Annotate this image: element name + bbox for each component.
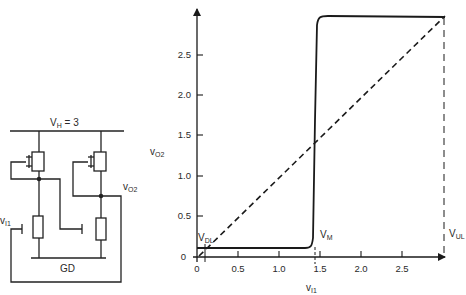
x-tick-label: 0.5 — [231, 263, 244, 274]
load-transistor-right — [94, 152, 106, 171]
y-tick-label: 1.0 — [178, 170, 191, 181]
transfer-curve — [197, 16, 445, 248]
y-tick-label: 1.5 — [178, 129, 191, 140]
x-tick-label: 0 — [194, 263, 199, 274]
y-tick-label: 2.0 — [178, 89, 191, 100]
supply-voltage-label: VH = 3 — [50, 117, 79, 129]
x-tick-label: 1.0 — [272, 263, 285, 274]
figure: VH = 3 GD vI1 vO2 0 0.5 1.0 1.5 2.0 2.5 … — [0, 0, 466, 295]
vul-annotation: VUL — [449, 228, 465, 240]
driver-transistor-left — [33, 216, 43, 238]
y-axis-title: vO2 — [150, 146, 164, 158]
output-label: vO2 — [123, 181, 137, 193]
vdl-annotation: VDL — [198, 232, 214, 244]
input-label: vI1 — [0, 215, 11, 227]
x-tick-label: 2.5 — [395, 263, 408, 274]
x-tick-label: 2.0 — [354, 263, 367, 274]
node-right — [99, 194, 102, 197]
y-ticks — [197, 55, 203, 216]
y-tick-label: 0.5 — [178, 210, 191, 221]
y-tick-label: 2.5 — [178, 49, 191, 60]
identity-dashed-line — [199, 16, 445, 256]
load-transistor-left — [32, 152, 44, 171]
vm-annotation: VM — [320, 229, 333, 241]
x-ticks — [238, 251, 402, 257]
transfer-chart: 0 0.5 1.0 1.5 2.0 2.5 0 0.5 1.0 1.5 2.0 … — [150, 9, 465, 294]
circuit-schematic — [10, 131, 124, 282]
driver-transistor-right — [96, 218, 106, 240]
ground-label: GD — [60, 263, 75, 274]
x-axis-title: vI1 — [306, 282, 317, 294]
x-tick-label: 1.5 — [313, 263, 326, 274]
y-tick-label: 0 — [181, 251, 186, 262]
